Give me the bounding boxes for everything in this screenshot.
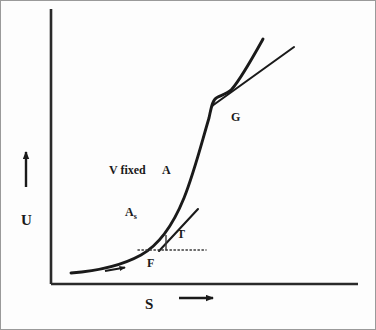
curve-label-a-subscript-s: As: [125, 206, 137, 221]
diagram-canvas: [1, 1, 376, 330]
curve-label-a: A: [162, 164, 171, 176]
thermodynamic-diagram: U S V fixed A As T F G: [0, 0, 376, 330]
v-fixed-annotation: V fixed: [109, 164, 146, 176]
energy-curve: [71, 39, 263, 273]
label-a-base: A: [125, 205, 134, 219]
foot-label-f: F: [147, 257, 154, 269]
tangent-label-g: G: [231, 111, 240, 123]
x-axis-label: S: [145, 297, 153, 312]
y-axis-label: U: [21, 213, 32, 228]
tangent-label-t: T: [177, 228, 185, 240]
label-a-subscript: s: [134, 212, 137, 221]
